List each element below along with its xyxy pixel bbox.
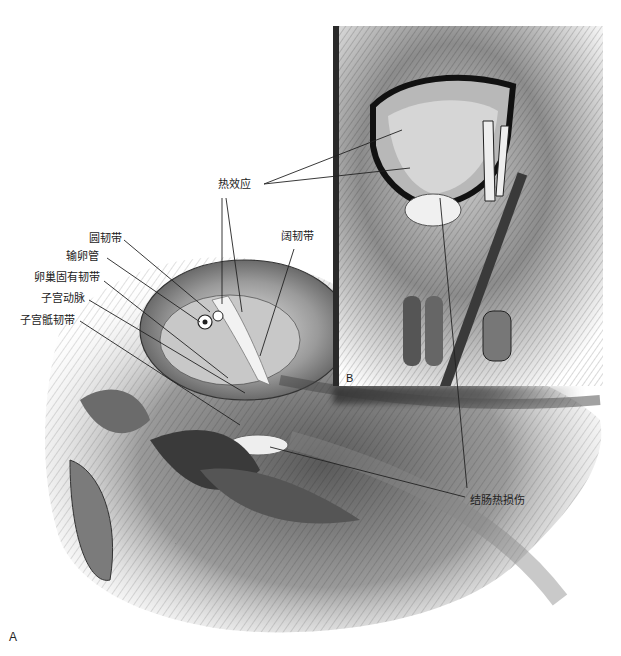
label-uterosacral-ligament: 子宫骶韧带 xyxy=(20,315,75,326)
label-broad-ligament: 阔韧带 xyxy=(281,231,314,242)
label-ovarian-ligament: 卵巢固有韧带 xyxy=(34,272,100,283)
label-colon-thermal-injury: 结肠热损伤 xyxy=(470,495,525,506)
anatomy-figure: B 圆韧带 输卵管 卵巢固有韧带 子 xyxy=(0,0,621,656)
label-fallopian-tube: 输卵管 xyxy=(66,251,99,262)
label-uterine-artery: 子宫动脉 xyxy=(41,293,85,304)
label-thermal-effect: 热效应 xyxy=(218,179,251,190)
leader-lines xyxy=(0,0,621,656)
panel-a-letter: A xyxy=(9,630,17,644)
label-round-ligament: 圆韧带 xyxy=(89,233,122,244)
